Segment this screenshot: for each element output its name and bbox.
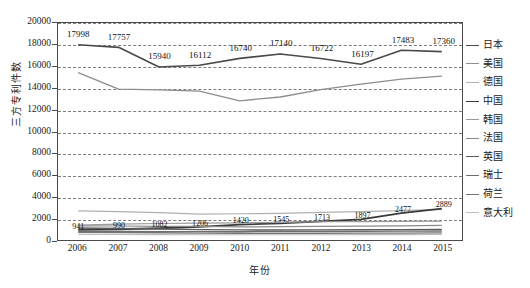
data-label: 16197 (351, 49, 374, 58)
data-label: 990 (113, 221, 125, 230)
series-line (78, 232, 442, 233)
data-label: 16112 (189, 50, 211, 59)
legend-item-美国[interactable]: 美国 (466, 55, 530, 74)
series-line (78, 45, 442, 67)
legend-item-法国[interactable]: 法国 (466, 129, 530, 148)
legend-swatch-icon (466, 119, 479, 120)
data-label: 1545 (273, 215, 289, 224)
legend-label: 意大利 (483, 208, 513, 218)
data-label: 17757 (108, 32, 131, 41)
plot-area: 1799817757159401611216740171401672216197… (57, 22, 463, 241)
legend-swatch-icon (466, 156, 479, 157)
series-line (78, 73, 442, 101)
legend-swatch-icon (466, 175, 479, 176)
y-axis-tick-labels: 2000018000160001400012000100008000600040… (0, 22, 57, 241)
legend-label: 韩国 (483, 115, 503, 125)
legend-swatch-icon (466, 212, 479, 213)
x-axis-tick: 2012 (311, 243, 330, 254)
chart-figure: 三方专利件数 200001800016000140001200010000800… (0, 0, 530, 288)
legend-swatch-icon (466, 63, 479, 64)
y-axis-tick: 4000 (32, 192, 51, 202)
legend-label: 中国 (483, 96, 503, 106)
y-axis-tick: 0 (46, 236, 51, 246)
y-axis-tick: 12000 (27, 105, 51, 115)
legend-item-德国[interactable]: 德国 (466, 73, 530, 92)
data-label: 17483 (392, 35, 415, 44)
legend-label: 法国 (483, 133, 503, 143)
x-axis-tick: 2014 (393, 243, 412, 254)
legend-item-瑞士[interactable]: 瑞士 (466, 166, 530, 185)
x-axis-tick: 2010 (230, 243, 249, 254)
legend-swatch-icon (466, 82, 479, 83)
x-axis-tick: 2011 (271, 243, 290, 254)
y-axis-tick: 16000 (27, 61, 51, 71)
data-label: 16722 (311, 43, 334, 52)
x-axis-title: 年份 (57, 262, 463, 277)
legend-label: 美国 (483, 59, 503, 69)
data-label: 1897 (355, 211, 371, 220)
data-label: 2889 (436, 200, 452, 209)
legend-swatch-icon (466, 138, 479, 139)
legend-swatch-icon (466, 194, 479, 195)
y-axis-tick: 6000 (32, 171, 51, 181)
y-axis-tick: 14000 (27, 83, 51, 93)
data-label: 17140 (270, 39, 293, 48)
y-axis-tick: 2000 (32, 214, 51, 224)
y-axis-tick: 10000 (27, 127, 51, 137)
x-axis-tick: 2015 (433, 243, 452, 254)
x-axis-tick: 2009 (190, 243, 209, 254)
chart-legend: 日本美国德国中国韩国法国英国瑞士荷兰意大利 (466, 36, 530, 222)
series-line (78, 225, 442, 226)
data-label: 15940 (148, 52, 171, 61)
data-label: 941 (72, 221, 84, 230)
legend-item-中国[interactable]: 中国 (466, 92, 530, 111)
data-label: 17360 (432, 36, 455, 45)
x-axis-tick: 2007 (108, 243, 127, 254)
x-axis-tick-labels: 2006200720082009201020112012201320142015 (57, 243, 463, 261)
series-line (78, 231, 442, 232)
y-axis-tick: 8000 (32, 149, 51, 159)
series-line (78, 209, 442, 214)
data-label: 2477 (395, 204, 411, 213)
legend-item-日本[interactable]: 日本 (466, 36, 530, 55)
legend-label: 英国 (483, 152, 503, 162)
data-label: 1082 (152, 220, 168, 229)
y-axis-tick: 18000 (27, 39, 51, 49)
y-axis-tick-mark (52, 241, 57, 242)
legend-label: 荷兰 (483, 189, 503, 199)
data-label: 16740 (229, 43, 252, 52)
legend-label: 日本 (483, 40, 503, 50)
legend-item-韩国[interactable]: 韩国 (466, 110, 530, 129)
y-axis-tick: 20000 (27, 17, 51, 27)
legend-swatch-icon (466, 45, 479, 46)
x-axis-tick: 2008 (149, 243, 168, 254)
legend-label: 德国 (483, 77, 503, 87)
data-label: 1206 (192, 218, 208, 227)
data-label: 1713 (314, 213, 330, 222)
data-label: 17998 (67, 29, 90, 38)
legend-label: 瑞士 (483, 170, 503, 180)
data-label: 1420 (233, 216, 249, 225)
x-axis-tick: 2006 (68, 243, 87, 254)
x-axis-tick: 2013 (352, 243, 371, 254)
legend-item-意大利[interactable]: 意大利 (466, 203, 530, 222)
legend-item-荷兰[interactable]: 荷兰 (466, 185, 530, 204)
legend-swatch-icon (466, 101, 479, 102)
legend-item-英国[interactable]: 英国 (466, 148, 530, 167)
